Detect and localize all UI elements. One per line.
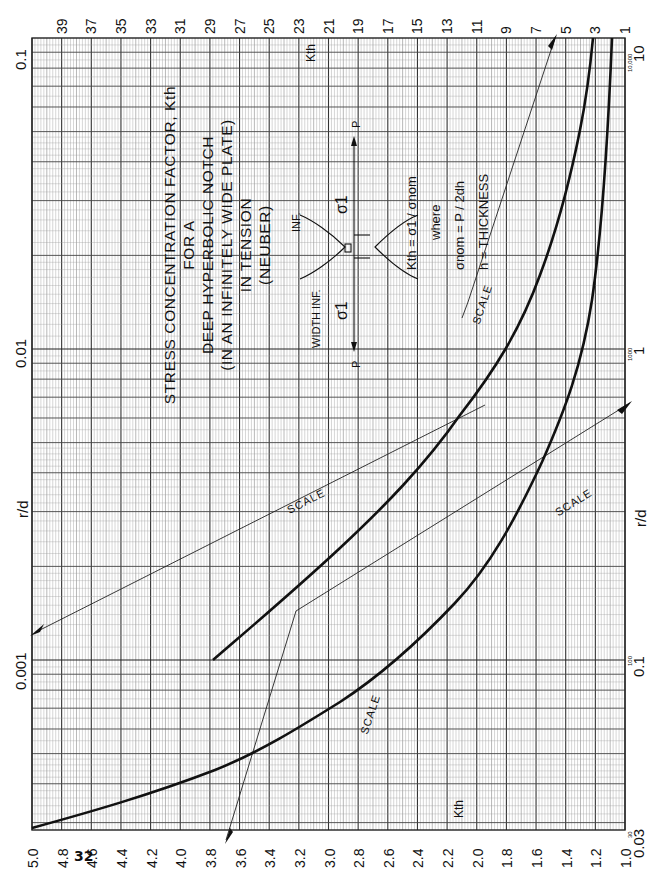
kth-bottom-tick: 3.8 (203, 849, 219, 868)
kth-bottom-tick: 4.2 (144, 849, 160, 868)
kth-bottom-tick: 2.2 (440, 849, 456, 868)
sigma1-label-top: σ1 (333, 195, 351, 214)
chart-title-block: STRESS CONCENTRATION FACTOR, Kth FOR A D… (160, 60, 274, 430)
left-tick-0.1: 0.1 (12, 49, 29, 70)
kth-bottom-tick: 1.2 (588, 849, 604, 868)
kth-top-tick: 19 (350, 18, 366, 34)
formula-kth: Kth = σ1 / σnom (400, 70, 424, 270)
kth-top-tick: 7 (528, 26, 544, 34)
title-line-4: (IN AN INFINITELY WIDE PLATE) (217, 60, 236, 430)
kth-top-tick: 3 (587, 26, 603, 34)
right-tick-10000: 10,000 (627, 54, 633, 72)
kth-top-tick: 37 (83, 18, 99, 34)
arrow-top-icon (548, 34, 557, 50)
kth-top-tick: 33 (143, 18, 159, 34)
left-axis-label: r/d (14, 500, 31, 518)
title-line-6: (NEUBER) (255, 60, 274, 430)
right-axis-label: r/d (632, 509, 649, 527)
kth-top-tick: 25 (261, 18, 277, 34)
kth-top-tick: 31 (172, 18, 188, 34)
kth-top-tick: 13 (439, 18, 455, 34)
kth-top-tick: 1 (617, 26, 633, 34)
kth-bottom-tick: 1.4 (559, 849, 575, 868)
kth-bottom-tick: 4.8 (55, 849, 71, 868)
kth-bottom-tick: 3.4 (262, 849, 278, 868)
left-tick-0.001: 0.001 (12, 652, 29, 690)
kth-bottom-tick: 1.6 (529, 849, 545, 868)
kth-bottom-tick: 5.0 (25, 849, 41, 868)
title-line-3: DEEP HYPERBOLIC NOTCH (198, 60, 217, 430)
kth-bottom-tick: 3.2 (292, 849, 308, 868)
formula-where: where (424, 70, 448, 270)
scale-arrowheads (30, 34, 632, 844)
kth-bottom-label: Kth (452, 800, 466, 818)
title-line-1: STRESS CONCENTRATION FACTOR, Kth (160, 60, 179, 430)
scale-line-upper-left (40, 405, 485, 630)
kth-bottom-tick: 4.4 (114, 849, 130, 868)
page-number: 32 (74, 848, 93, 864)
curve-kth-bottom-scale (32, 38, 612, 828)
sigma1-label-bottom: σ1 (333, 301, 351, 320)
right-tick-100: 100 (627, 656, 633, 666)
kth-top-tick: 5 (558, 26, 574, 34)
right-tick-30: 30 (627, 831, 633, 838)
stress-concentration-chart (0, 0, 658, 873)
kth-bottom-tick: 3.6 (233, 849, 249, 868)
kth-top-tick: 27 (232, 18, 248, 34)
graph-paper-grid (32, 38, 625, 830)
kth-top-tick: 21 (321, 18, 337, 34)
right-tick-1000: 1000 (627, 348, 633, 361)
formula-block: Kth = σ1 / σnom where σnom = P / 2dh h =… (400, 70, 496, 270)
kth-bottom-tick: 2.0 (470, 849, 486, 868)
inf-label: INF. (290, 212, 302, 232)
p-label-top: P (350, 121, 362, 128)
kth-bottom-tick: 1.8 (499, 849, 515, 868)
scale-lines (40, 38, 630, 840)
kth-top-tick: 29 (202, 18, 218, 34)
left-tick-0.01: 0.01 (12, 339, 29, 368)
kth-bottom-tick: 3.0 (322, 849, 338, 868)
kth-bottom-tick: 2.4 (410, 849, 426, 868)
kth-top-tick: 39 (54, 18, 70, 34)
kth-top-tick: 11 (469, 19, 485, 34)
width-inf-label: WIDTH INF. (310, 289, 322, 348)
kth-top-tick: 35 (113, 18, 129, 34)
kth-bottom-tick: 2.8 (351, 849, 367, 868)
kth-bottom-tick: 1.0 (618, 849, 634, 868)
kth-top-tick: 9 (498, 26, 514, 34)
kth-top-label: Kth (304, 44, 318, 62)
formula-sigma-nom: σnom = P / 2dh (448, 70, 472, 270)
kth-top-tick: 15 (409, 18, 425, 34)
kth-top-tick: 23 (291, 18, 307, 34)
scale-line-middle-lower (296, 403, 630, 611)
title-line-5: IN TENSION (236, 60, 255, 430)
kth-bottom-tick: 2.6 (381, 849, 397, 868)
kth-top-tick: 17 (380, 18, 396, 34)
formula-thickness: h = THICKNESS (472, 70, 496, 270)
stress-element (345, 244, 351, 252)
p-label-bottom: P (350, 361, 362, 368)
title-line-2: FOR A (179, 60, 198, 430)
kth-bottom-tick: 4.0 (173, 849, 189, 868)
